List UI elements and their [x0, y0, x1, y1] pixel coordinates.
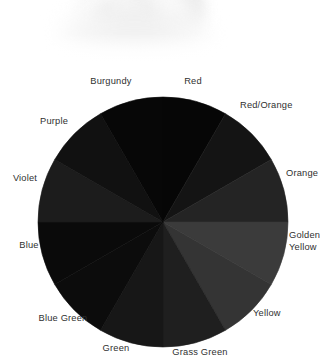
wheel-label-orange: Orange: [286, 168, 318, 180]
wheel-label-blue: Blue: [0, 240, 58, 252]
wheel-label-blue-green: Blue Green: [0, 313, 126, 325]
wheel-label-violet: Violet: [0, 173, 50, 185]
wheel-label-golden-yellow: Golden Yellow: [289, 230, 320, 253]
wheel-label-green: Green: [0, 343, 232, 355]
color-wheel-figure: RedRed/OrangeOrangeGolden YellowYellowGr…: [0, 0, 323, 359]
wheel-label-yellow: Yellow: [253, 308, 281, 320]
wheel-label-burgundy: Burgundy: [0, 76, 222, 88]
wheel-label-purple: Purple: [0, 116, 108, 128]
wheel-label-red-orange: Red/Orange: [240, 100, 293, 112]
